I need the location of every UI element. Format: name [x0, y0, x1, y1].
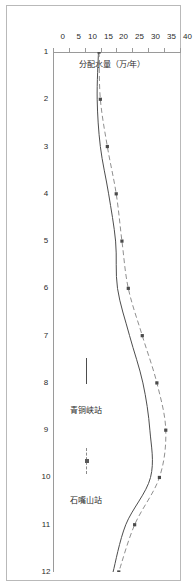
data-point-marker: [133, 523, 136, 526]
data-point-marker: [117, 570, 120, 572]
rotated-chart-wrapper: 分配水量（万/年） 0510152025303540 1234567891011…: [7, 6, 188, 587]
data-point-marker: [120, 239, 123, 242]
legend-line-icon-dashed: [82, 448, 90, 474]
chart-legend: 青铜峡站 石嘴山站: [81, 358, 91, 524]
plot-area: [54, 52, 181, 572]
legend-line-icon-solid: [82, 358, 90, 384]
data-point-marker: [127, 287, 130, 290]
y-tick-label: 40: [170, 32, 188, 42]
legend-label-dashed: 石嘴山站: [63, 496, 109, 506]
legend-label-solid: 青铜峡站: [63, 406, 109, 416]
series-line-1: [97, 52, 152, 572]
data-point-marker: [141, 334, 144, 337]
data-point-marker: [115, 192, 118, 195]
legend-item-dashed: 石嘴山站: [81, 448, 91, 524]
data-point-marker: [106, 145, 109, 148]
legend-item-solid: 青铜峡站: [81, 358, 91, 434]
chart-stage: 分配水量（万/年） 0510152025303540 1234567891011…: [7, 6, 188, 587]
data-point-marker: [158, 476, 161, 479]
data-point-marker: [164, 429, 167, 432]
series-canvas: [54, 52, 181, 572]
data-point-marker: [97, 52, 100, 54]
data-point-marker: [155, 381, 158, 384]
figure-frame: 分配水量（万/年） 0510152025303540 1234567891011…: [6, 5, 181, 581]
series-line-2: [99, 52, 166, 572]
data-point-marker: [99, 98, 102, 101]
